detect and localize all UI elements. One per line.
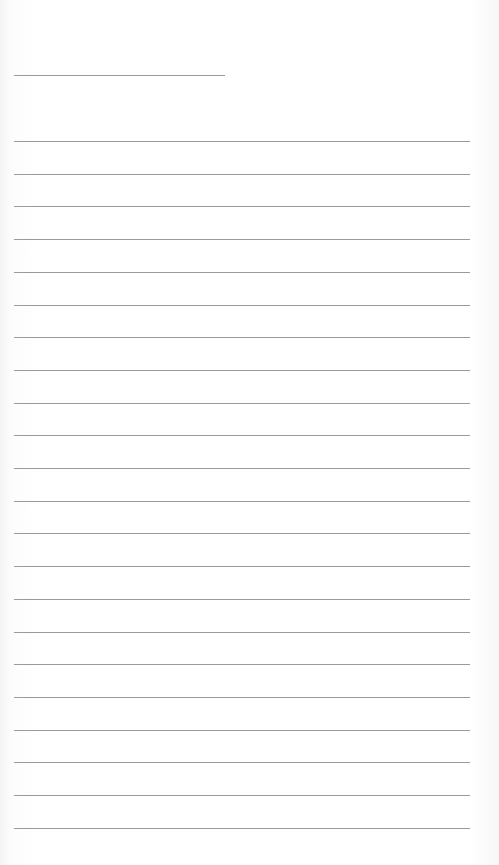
ruled-line — [14, 468, 470, 469]
ruled-line — [14, 533, 470, 534]
ruled-line — [14, 828, 470, 829]
ruled-line — [14, 370, 470, 371]
ruled-line — [14, 730, 470, 731]
lined-paper — [0, 0, 499, 865]
header-line — [14, 75, 225, 76]
ruled-line — [14, 566, 470, 567]
ruled-line — [14, 141, 470, 142]
ruled-line — [14, 403, 470, 404]
ruled-line — [14, 174, 470, 175]
ruled-line — [14, 337, 470, 338]
ruled-line — [14, 697, 470, 698]
ruled-line — [14, 599, 470, 600]
ruled-line — [14, 305, 470, 306]
ruled-line — [14, 762, 470, 763]
ruled-line — [14, 435, 470, 436]
ruled-line — [14, 795, 470, 796]
ruled-line — [14, 664, 470, 665]
ruled-line — [14, 206, 470, 207]
ruled-line — [14, 501, 470, 502]
ruled-line — [14, 239, 470, 240]
ruled-line — [14, 632, 470, 633]
ruled-line — [14, 272, 470, 273]
